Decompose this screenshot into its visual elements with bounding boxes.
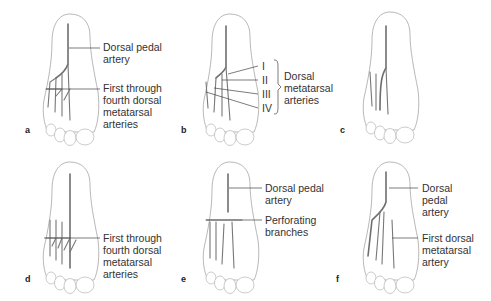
- roman-II: II: [262, 74, 268, 86]
- label-dorsal-f: Dorsal: [422, 182, 452, 194]
- label-arteries-a: arteries: [103, 118, 138, 130]
- panel-a: [43, 14, 99, 146]
- panel-letter-d: d: [25, 274, 31, 284]
- roman-III: III: [262, 88, 271, 100]
- label-fourth-dorsal-a: fourth dorsal: [103, 94, 161, 106]
- label-first-through-d: First through: [103, 232, 162, 244]
- label-artery2-f: artery: [422, 256, 450, 268]
- roman-IV: IV: [262, 102, 272, 114]
- label-dorsal-pedal-a: Dorsal pedal: [103, 41, 162, 53]
- label-metatarsal-a: metatarsal: [103, 106, 152, 118]
- panel-e: [203, 162, 259, 294]
- panel-letter-b: b: [181, 125, 187, 135]
- label-pedal-f: pedal: [422, 194, 448, 206]
- panel-letter-e: e: [181, 274, 186, 284]
- label-artery-e: artery: [265, 194, 293, 206]
- roman-I: I: [262, 60, 265, 72]
- panel-c: [363, 12, 419, 144]
- label-metatarsal-d: metatarsal: [103, 256, 152, 268]
- label-perforating-e: Perforating: [265, 214, 317, 226]
- label-branches-e: branches: [265, 226, 308, 238]
- panel-letter-c: c: [340, 125, 345, 135]
- brace: [274, 60, 281, 114]
- label-fourth-dorsal-d: fourth dorsal: [103, 244, 161, 256]
- label-first-dorsal-f: First dorsal: [422, 232, 474, 244]
- panel-d: [43, 162, 99, 294]
- label-arteries-d: arteries: [103, 268, 138, 280]
- panel-letter-f: f: [336, 274, 340, 284]
- label-dorsal-b: Dorsal: [284, 70, 314, 82]
- label-artery-f: artery: [422, 206, 450, 218]
- label-artery-a: artery: [103, 53, 131, 65]
- label-metatarsal-b: metatarsal: [284, 82, 333, 94]
- panel-letter-a: a: [25, 125, 31, 135]
- label-dorsal-pedal-e: Dorsal pedal: [265, 182, 324, 194]
- panel-f: [363, 162, 419, 294]
- label-arteries-b: arteries: [284, 94, 319, 106]
- foot-artery-figure: Dorsal pedal artery First through fourth…: [0, 0, 491, 301]
- label-first-through-a: First through: [103, 82, 162, 94]
- label-metatarsal-f: metatarsal: [422, 244, 471, 256]
